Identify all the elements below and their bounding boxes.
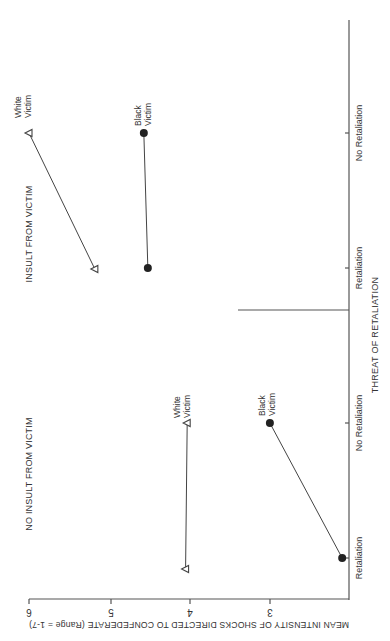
chart: 6 5 4 3 MEAN INTENSITY OF SHOCKS DIRECTE… [0, 0, 390, 641]
cat-label-no-retaliation-upper: No Retaliation [354, 105, 364, 162]
triangle-marker-icon [25, 130, 32, 137]
triangle-marker-icon [91, 266, 98, 273]
annotation-black-victim-upper: Black [133, 104, 143, 126]
annotation-black-victim-upper-2: Victim [143, 103, 153, 126]
triangle-marker-icon [182, 566, 189, 573]
panel-title-insult: INSULT FROM VICTIM [24, 186, 34, 283]
cat-label-no-retaliation-lower: No Retaliation [354, 395, 364, 452]
circle-marker-icon [144, 264, 152, 272]
cat-label-retaliation-lower: Retaliation [354, 537, 364, 580]
annotation-white-victim-lower-2: Victim [182, 395, 192, 418]
y-axis-title: MEAN INTENSITY OF SHOCKS DIRECTED TO CON… [29, 620, 349, 630]
series-annotations: White Victim Black Victim White Victim B… [13, 95, 277, 418]
series-black-victim-insult [140, 129, 152, 272]
annotation-black-victim-lower: Black [257, 394, 267, 416]
series-line [270, 423, 342, 558]
annotation-white-victim-upper-2: Victim [23, 95, 33, 118]
category-axis: No Retaliation Retaliation No Retaliatio… [238, 20, 380, 600]
panel-title-no-insult: NO INSULT FROM VICTIM [24, 417, 34, 530]
tick-label-6: 6 [26, 607, 32, 618]
x-axis-title: THREAT OF RETALIATION [370, 277, 380, 394]
series-line [144, 133, 148, 268]
tick-label-4: 4 [187, 607, 193, 618]
annotation-white-victim-upper: White [13, 96, 23, 118]
series-line [29, 133, 95, 269]
circle-marker-icon [140, 129, 148, 137]
circle-marker-icon [338, 554, 346, 562]
circle-marker-icon [266, 419, 274, 427]
cat-label-retaliation-upper: Retaliation [354, 247, 364, 290]
series-line [186, 423, 188, 569]
annotation-black-victim-lower-2: Victim [267, 393, 277, 416]
series-black-victim-no-insult [266, 419, 346, 562]
series-layer [25, 129, 346, 573]
tick-label-3: 3 [267, 607, 273, 618]
series-white-victim-insult [25, 130, 98, 273]
annotation-white-victim-lower: White [172, 396, 182, 418]
value-axis: 6 5 4 3 MEAN INTENSITY OF SHOCKS DIRECTE… [26, 599, 349, 630]
tick-label-5: 5 [108, 607, 114, 618]
series-white-victim-no-insult [182, 420, 191, 573]
